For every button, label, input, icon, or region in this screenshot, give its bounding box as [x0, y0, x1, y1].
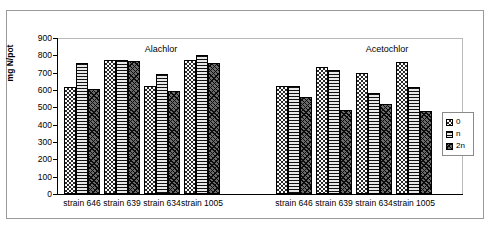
bar-n [288, 86, 300, 194]
bar-2n [380, 104, 392, 194]
legend-label: n [456, 130, 460, 138]
y-axis-tickmark [53, 55, 57, 56]
bar-2n [208, 63, 220, 194]
legend-label: 0 [456, 118, 460, 126]
y-axis-tickmark [53, 194, 57, 195]
y-axis-tick-500: 500 [38, 103, 52, 112]
bar-0 [184, 60, 196, 194]
bar-n [408, 87, 420, 194]
y-axis-tickmark [53, 73, 57, 74]
legend-item-0[interactable]: 0 [446, 116, 470, 128]
plot-area [58, 38, 463, 194]
bar-2n [128, 61, 140, 194]
legend-swatch-icon [446, 143, 453, 150]
x-axis-category-label: strain 1005 [176, 198, 228, 209]
bar-n [196, 55, 208, 194]
y-axis-tickmark [53, 107, 57, 108]
bar-n [76, 63, 88, 194]
bar-2n [420, 111, 432, 194]
bar-group [316, 38, 352, 194]
chart-container: 9008007006005004003002001000 mg N/pot 0n… [6, 10, 484, 219]
panel-title-1: Alachlor [121, 44, 201, 54]
bar-2n [300, 97, 312, 194]
bar-n [368, 93, 380, 194]
bar-0 [396, 62, 408, 194]
legend-item-n[interactable]: n [446, 128, 470, 140]
bar-2n [168, 91, 180, 194]
y-axis-tick-900: 900 [38, 34, 52, 43]
bar-0 [316, 67, 328, 194]
bar-group [144, 38, 180, 194]
bar-group [396, 38, 432, 194]
legend-swatch-icon [446, 119, 453, 126]
y-axis-tickmark [53, 159, 57, 160]
bar-group [276, 38, 312, 194]
legend-swatch-icon [446, 131, 453, 138]
y-axis-tick-200: 200 [38, 155, 52, 164]
bar-group [356, 38, 392, 194]
bar-group [64, 38, 100, 194]
y-axis-tick-100: 100 [38, 172, 52, 181]
x-axis-line [57, 194, 463, 195]
y-axis-tick-300: 300 [38, 138, 52, 147]
y-axis-tickmark [53, 177, 57, 178]
y-axis-tick-800: 800 [38, 51, 52, 60]
x-axis-category-label: strain 1005 [388, 198, 440, 209]
bar-0 [276, 86, 288, 194]
panel-title-2: Acetochlor [347, 44, 427, 54]
bar-n [156, 74, 168, 194]
bar-0 [104, 60, 116, 194]
bar-group [104, 38, 140, 194]
y-axis-tick-700: 700 [38, 68, 52, 77]
bar-n [328, 70, 340, 194]
bar-0 [64, 87, 76, 194]
y-axis-tickmark [53, 142, 57, 143]
y-axis-tickmark [53, 90, 57, 91]
y-axis-tickmark [53, 38, 57, 39]
bar-group [184, 38, 220, 194]
legend-label: 2n [456, 142, 465, 150]
chart-legend: 0n2n [442, 112, 474, 156]
bar-0 [144, 86, 156, 194]
y-axis-tickmark [53, 125, 57, 126]
bar-2n [88, 89, 100, 194]
legend-item-2n[interactable]: 2n [446, 140, 470, 152]
y-axis-tick-600: 600 [38, 86, 52, 95]
bar-2n [340, 110, 352, 194]
bar-0 [356, 73, 368, 194]
bar-n [116, 60, 128, 194]
y-axis-tick-400: 400 [38, 120, 52, 129]
y-axis-title: mg N/pot [5, 23, 15, 103]
y-axis-tick-0: 0 [47, 190, 52, 199]
